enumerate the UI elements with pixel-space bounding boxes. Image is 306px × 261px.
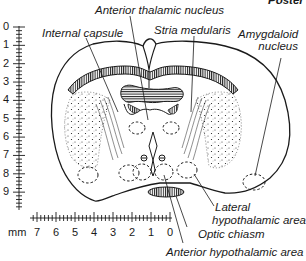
corner-text: Poster xyxy=(268,0,304,6)
label-amygdaloid-nucleus-2: nucleus xyxy=(238,40,298,52)
vertical-tick-label: 4 xyxy=(3,94,9,105)
label-lateral-hypothalamic-1: Lateral xyxy=(215,201,250,213)
horizontal-tick-label: 5 xyxy=(72,227,78,238)
horizontal-tick-label: 2 xyxy=(129,227,135,238)
label-anterior-thalamic-nucleus: Anterior thalamic nucleus xyxy=(95,4,224,16)
label-optic-chiasm: Optic chiasm xyxy=(198,228,264,240)
vertical-tick-label: 8 xyxy=(3,168,9,179)
vertical-tick-label: 9 xyxy=(3,186,9,197)
horizontal-tick-label: 4 xyxy=(91,227,97,238)
horizontal-tick-label: 7 xyxy=(34,227,40,238)
vertical-tick-label: 1 xyxy=(3,39,9,50)
vertical-scale xyxy=(13,26,25,210)
horizontal-tick-label: 3 xyxy=(110,227,116,238)
vertical-tick-label: 0 xyxy=(3,21,9,32)
thalamus xyxy=(121,85,184,102)
label-stria-medullaris: Stria medularis xyxy=(154,24,231,36)
label-internal-capsule: Internal capsule xyxy=(42,27,123,39)
lateral-hypothalamic-area-left xyxy=(78,167,98,183)
horizontal-tick-label: 6 xyxy=(53,227,59,238)
horizontal-tick-label: 0 xyxy=(167,227,173,238)
horizontal-tick-label: 1 xyxy=(148,227,154,238)
scale-unit: mm xyxy=(8,227,26,238)
vertical-tick-label: 2 xyxy=(3,58,9,69)
vertical-tick-label: 5 xyxy=(3,113,9,124)
optic-chiasm xyxy=(148,187,184,197)
label-lateral-hypothalamic-2: hypothalamic area xyxy=(212,214,306,226)
horizontal-scale xyxy=(30,212,172,222)
label-anterior-hypothalamic-area: Anterior hypothalamic area xyxy=(166,246,303,258)
third-ventricle xyxy=(149,132,157,160)
anterior-thalamic-nucleus-left xyxy=(129,122,145,134)
brain-section-diagram: Poster Anterior thalamic nucleus Interna… xyxy=(0,0,306,261)
label-amygdaloid-nucleus-1: Amygdaloid xyxy=(238,28,298,40)
vertical-tick-label: 7 xyxy=(3,149,9,160)
vertical-tick-label: 3 xyxy=(3,76,9,87)
vertical-tick-label: 6 xyxy=(3,131,9,142)
